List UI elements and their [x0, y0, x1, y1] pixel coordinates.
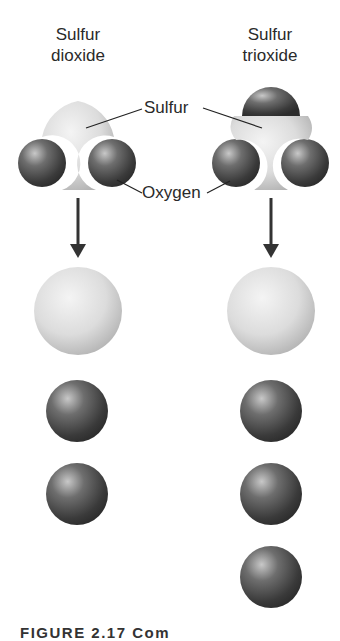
oxygen-leader-line-right: [207, 181, 230, 193]
oxygen-atom: [88, 139, 136, 187]
oxygen-atom-separated: [46, 463, 108, 525]
arrow-down-icon: [70, 198, 86, 258]
label-sulfur: Sulfur: [144, 98, 188, 118]
oxygen-atom-separated: [240, 380, 302, 442]
oxygen-atom: [212, 139, 260, 187]
arrow-down-icon: [263, 198, 279, 258]
oxygen-atom-separated: [240, 463, 302, 525]
label-oxygen: Oxygen: [142, 183, 201, 203]
oxygen-atom: [281, 139, 329, 187]
sulfur-dioxide-model: [18, 101, 136, 190]
oxygen-atom-separated: [46, 380, 108, 442]
oxygen-atom: [242, 87, 300, 116]
oxygen-atom: [18, 139, 66, 187]
oxygen-atom-separated: [240, 546, 302, 608]
figure-caption: FIGURE 2.17 Com: [20, 624, 170, 641]
oxygen-leader-line-left: [117, 180, 142, 193]
sulfur-atom-separated: [34, 267, 122, 355]
sulfur-atom-separated: [227, 267, 315, 355]
sulfur-trioxide-model: [212, 87, 329, 190]
